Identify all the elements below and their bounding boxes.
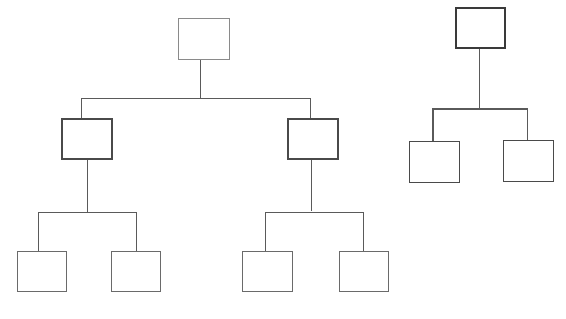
tree-node-leaf-2 bbox=[503, 140, 554, 182]
tree-node-root bbox=[178, 18, 230, 60]
connector-vertical-line bbox=[200, 60, 201, 98]
connector-vertical-line bbox=[527, 108, 528, 140]
tree-node-mid-right bbox=[287, 118, 339, 160]
tree-node-leaf-2 bbox=[111, 251, 161, 292]
tree-node-leaf-1 bbox=[409, 141, 460, 183]
connector-horizontal-line bbox=[38, 212, 137, 213]
connector-horizontal-line bbox=[432, 108, 528, 110]
diagram-canvas bbox=[0, 0, 566, 319]
tree-node-mid-left bbox=[61, 118, 113, 160]
tree-node-leaf-4 bbox=[339, 251, 389, 292]
connector-vertical-line bbox=[363, 212, 364, 251]
connector-vertical-line bbox=[479, 49, 480, 109]
connector-horizontal-line bbox=[265, 212, 364, 213]
connector-vertical-line bbox=[432, 108, 434, 141]
connector-vertical-line bbox=[136, 212, 137, 251]
tree-node-root bbox=[455, 7, 506, 49]
connector-vertical-line bbox=[81, 98, 82, 118]
connector-vertical-line bbox=[38, 212, 39, 251]
connector-vertical-line bbox=[310, 98, 311, 118]
connector-vertical-line bbox=[87, 160, 88, 212]
tree-node-leaf-3 bbox=[242, 251, 293, 292]
connector-vertical-line bbox=[265, 212, 266, 251]
connector-horizontal-line bbox=[81, 98, 311, 99]
tree-node-leaf-1 bbox=[17, 251, 67, 292]
connector-vertical-line bbox=[311, 160, 312, 211]
